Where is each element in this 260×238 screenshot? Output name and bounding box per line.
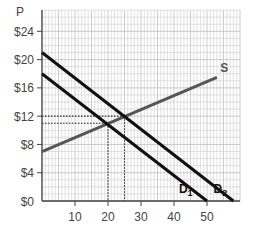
x-tick-label: 40 bbox=[167, 210, 181, 224]
y-tick-label: $24 bbox=[14, 25, 34, 39]
x-tick-label: 50 bbox=[200, 210, 214, 224]
y-tick-label: $8 bbox=[21, 138, 35, 152]
supply-demand-chart: 1020304050$0$4$8$12$16$20$24P SD1D2 bbox=[0, 0, 260, 238]
y-tick-label: $20 bbox=[14, 53, 34, 67]
x-tick-label: 30 bbox=[134, 210, 148, 224]
x-tick-label: 20 bbox=[101, 210, 115, 224]
y-tick-label: $16 bbox=[14, 81, 34, 95]
demand-label-d2: D2 bbox=[214, 182, 228, 198]
y-axis-label: P bbox=[16, 5, 24, 19]
y-tick-label: $12 bbox=[14, 110, 34, 124]
y-tick-label: $0 bbox=[21, 195, 35, 209]
x-tick-label: 10 bbox=[68, 210, 82, 224]
supply-label: S bbox=[220, 61, 228, 75]
grid bbox=[42, 10, 240, 201]
y-tick-label: $4 bbox=[21, 166, 35, 180]
